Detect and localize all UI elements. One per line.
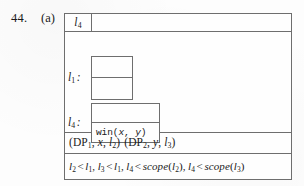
- constraint-4: l4<scope(l3): [186, 160, 245, 174]
- sub-cell-l4-upper: [92, 104, 159, 123]
- c4-right-fn: scope: [204, 160, 230, 172]
- constraint-1: l2<l1,: [69, 160, 95, 174]
- decl2-close: ): [172, 136, 176, 148]
- sub-cell-l1-upper: [92, 57, 132, 78]
- sub-cell-l1-lower: [92, 78, 132, 99]
- body-row: l1: l4: win(x, y): [65, 32, 291, 133]
- header-scope-label: l4: [74, 16, 81, 30]
- declarations-row: (DP1, x, l2) (DP2, y, l3): [65, 133, 291, 154]
- c4-close-paren: ): [241, 160, 245, 172]
- block-label-l4: l4:: [66, 116, 91, 130]
- figure-caption-group: 44. (a): [0, 11, 64, 31]
- decl2-kind: DP: [128, 136, 143, 148]
- header-empty-cell: [92, 14, 291, 31]
- part-label: (a): [41, 11, 55, 26]
- diagram-frame: l4 l1: l4: win(x, y) (DP1, x, l2): [64, 13, 292, 180]
- c4-operator: <: [195, 160, 204, 172]
- item-number: 44.: [11, 11, 27, 26]
- block-label-l4-colon: :: [75, 116, 82, 128]
- header-scope-cell: l4: [65, 14, 92, 31]
- sub-box-l1: [91, 56, 133, 100]
- declaration-pair-2: (DP2, y, l3): [120, 136, 175, 150]
- block-label-l1-colon: :: [75, 71, 82, 83]
- constraint-2: l3<l1,: [95, 160, 124, 174]
- block-label-l1: l1:: [66, 71, 91, 85]
- declaration-pair-1: (DP1, x, l2): [69, 136, 120, 150]
- block-entry-l1: l1:: [66, 56, 133, 100]
- header-row: l4: [65, 14, 291, 32]
- decl1-kind: DP: [73, 136, 88, 148]
- c3-right-fn: scope: [143, 160, 169, 172]
- header-scope-label-sub: 4: [78, 20, 82, 29]
- constraints-row: l2<l1, l3<l1, l4<scope(l2), l4<scope(l3): [65, 154, 291, 179]
- c3-operator: <: [133, 160, 142, 172]
- c1-operator: <: [76, 160, 85, 172]
- constraint-3: l4<scope(l2),: [124, 160, 186, 174]
- c2-operator: <: [105, 160, 114, 172]
